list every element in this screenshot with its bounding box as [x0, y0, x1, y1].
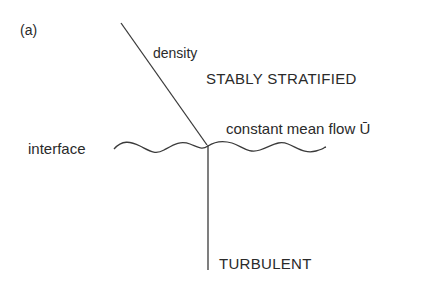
stably-stratified-label: STABLY STRATIFIED [206, 71, 357, 86]
turbulent-label: TURBULENT [219, 256, 312, 271]
mean-flow-label: constant mean flow Ū [226, 121, 370, 136]
panel-label: (a) [20, 23, 37, 37]
interface-label: interface [28, 141, 86, 156]
density-label: density [153, 46, 197, 60]
density-profile-line [121, 23, 207, 145]
interface-wave [114, 142, 326, 153]
diagram-canvas: (a) density STABLY STRATIFIED constant m… [0, 0, 446, 290]
